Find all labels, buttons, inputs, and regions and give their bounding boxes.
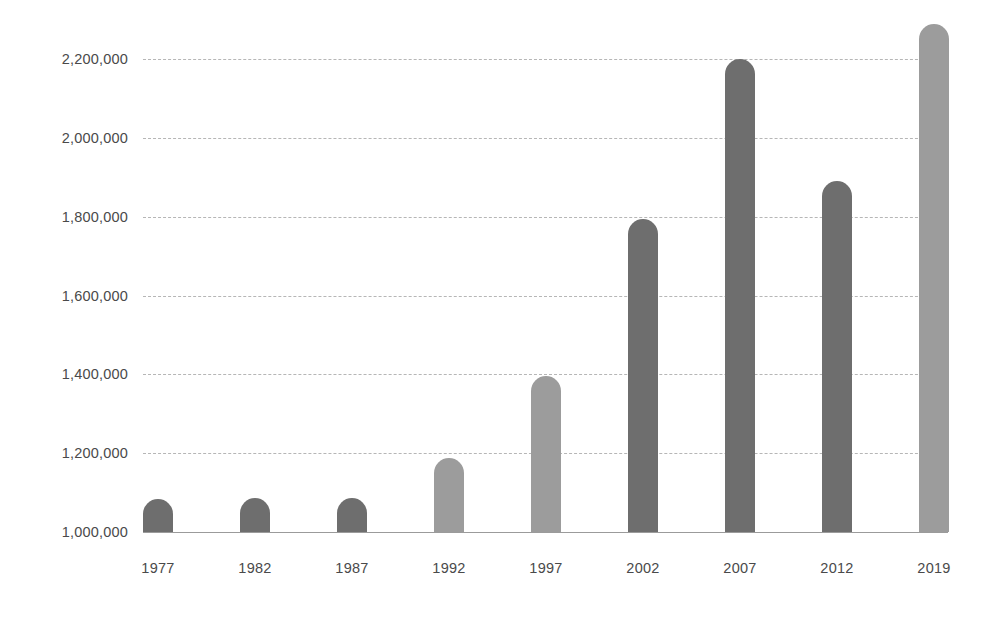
bar-2012[interactable] (822, 181, 852, 532)
y-axis-tick-label: 2,200,000 (62, 51, 128, 67)
x-axis-tick-label: 2012 (820, 560, 853, 576)
bar-2007[interactable] (725, 59, 755, 532)
plot-area (143, 20, 948, 532)
x-axis-line (143, 532, 948, 533)
x-axis-tick-label: 2007 (723, 560, 756, 576)
x-axis-tick-label: 2002 (626, 560, 659, 576)
x-axis-tick-labels: 197719821987199219972002200720122019 (0, 560, 996, 584)
y-axis-tick-label: 1,000,000 (62, 524, 128, 540)
gridline (143, 138, 948, 139)
bar-2002[interactable] (628, 219, 658, 532)
bar-1992[interactable] (434, 458, 464, 532)
bar-2019[interactable] (919, 24, 949, 532)
y-axis-tick-label: 2,000,000 (62, 130, 128, 146)
bar-1977[interactable] (143, 499, 173, 532)
y-axis-tick-labels: 1,000,0001,200,0001,400,0001,600,0001,80… (0, 20, 128, 532)
x-axis-tick-label: 1982 (238, 560, 271, 576)
x-axis-tick-label: 1992 (432, 560, 465, 576)
bar-1997[interactable] (531, 376, 561, 532)
y-axis-tick-label: 1,800,000 (62, 209, 128, 225)
x-axis-tick-label: 1997 (529, 560, 562, 576)
x-axis-tick-label: 1987 (335, 560, 368, 576)
y-axis-tick-label: 1,600,000 (62, 288, 128, 304)
bar-chart: 1,000,0001,200,0001,400,0001,600,0001,80… (0, 0, 996, 621)
y-axis-tick-label: 1,200,000 (62, 445, 128, 461)
x-axis-tick-label: 2019 (917, 560, 950, 576)
bar-1982[interactable] (240, 498, 270, 532)
bar-1987[interactable] (337, 498, 367, 532)
gridline (143, 59, 948, 60)
x-axis-tick-label: 1977 (141, 560, 174, 576)
y-axis-tick-label: 1,400,000 (62, 366, 128, 382)
